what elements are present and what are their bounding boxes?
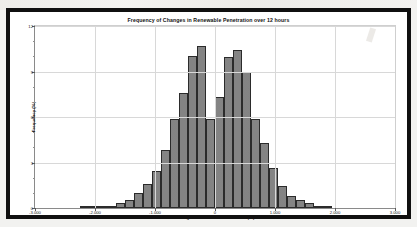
histogram-bar: [170, 119, 179, 208]
x-axis-title: Change in Renewable Penetration (%): [35, 215, 395, 220]
histogram-bar: [287, 196, 296, 208]
x-axis-tick-label: 2.000: [330, 210, 340, 215]
y-axis-minor-tick: [33, 147, 35, 148]
histogram-bar: [197, 46, 206, 208]
histogram-bar: [278, 186, 287, 208]
histogram-bar: [296, 200, 305, 208]
x-axis-tick-label: -3.000: [29, 210, 41, 215]
x-axis-tick-label: 1.000: [270, 210, 280, 215]
chart-canvas: Frequency of Changes in Renewable Penetr…: [10, 12, 407, 215]
chart-figure-frame: Frequency of Changes in Renewable Penetr…: [6, 8, 411, 219]
histogram-bar: [125, 200, 134, 208]
histogram-bar: [107, 206, 116, 208]
chart-title: Frequency of Changes in Renewable Penetr…: [10, 17, 407, 23]
x-axis-tick-label: -1.000: [149, 210, 161, 215]
histogram-bar: [305, 203, 314, 208]
histogram-bar: [89, 206, 98, 208]
y-axis-tick-label: 9: [31, 69, 33, 74]
x-gridline: [155, 26, 156, 208]
histogram-bar: [323, 206, 332, 208]
x-gridline: [335, 26, 336, 208]
plot-axes-area: Change in Renewable Penetration (%) Freq…: [34, 25, 396, 209]
histogram-bar: [242, 72, 251, 208]
histogram-bar: [134, 193, 143, 208]
histogram-bar: [80, 206, 89, 208]
x-axis-tick-label: 3.000: [390, 210, 400, 215]
x-gridline: [215, 26, 216, 208]
y-axis-minor-tick: [33, 193, 35, 194]
x-gridline: [95, 26, 96, 208]
y-axis-tick-label: 12: [28, 24, 33, 29]
y-axis-minor-tick: [33, 178, 35, 179]
histogram-bar: [314, 206, 323, 208]
histogram-bar: [161, 150, 170, 208]
screenshot-stage: Frequency of Changes in Renewable Penetr…: [0, 0, 417, 227]
histogram-bar: [188, 56, 197, 208]
y-axis-minor-tick: [33, 132, 35, 133]
histogram-bar: [215, 97, 224, 208]
y-axis-minor-tick: [33, 102, 35, 103]
histogram-bar: [116, 203, 125, 208]
y-axis-tick-label: 6: [31, 115, 33, 120]
y-axis-minor-tick: [33, 87, 35, 88]
histogram-bar: [206, 119, 215, 208]
x-axis-tick-label: 0: [214, 210, 216, 215]
y-axis-minor-tick: [33, 56, 35, 57]
y-axis-tick-label: 3: [31, 160, 33, 165]
histogram-bar: [98, 206, 107, 208]
histogram-bar: [152, 171, 161, 208]
histogram-bar: [143, 184, 152, 208]
histogram-bar: [179, 93, 188, 208]
histogram-bar: [224, 57, 233, 208]
x-gridline: [275, 26, 276, 208]
histogram-bar: [269, 168, 278, 208]
x-axis-tick-label: -2.000: [89, 210, 101, 215]
histogram-bar: [260, 143, 269, 208]
y-axis-minor-tick: [33, 41, 35, 42]
histogram-bar: [233, 50, 242, 208]
